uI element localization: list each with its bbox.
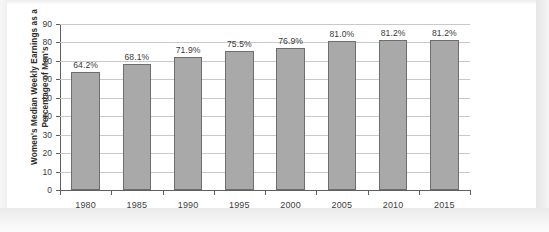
bar bbox=[123, 64, 152, 190]
y-axis-tick-label: 70 bbox=[26, 57, 52, 65]
gridline bbox=[60, 98, 470, 99]
bar-value-label: 75.5% bbox=[214, 39, 265, 49]
y-axis-tick-label: 80 bbox=[26, 38, 52, 46]
bar-value-label: 81.2% bbox=[368, 28, 419, 38]
y-axis-tick bbox=[56, 24, 60, 25]
y-axis-tick-label: 60 bbox=[26, 75, 52, 83]
y-axis-tick-label: 30 bbox=[26, 131, 52, 139]
gridline bbox=[60, 153, 470, 154]
plot-area: 0102030405060708090 64.2%68.1%71.9%75.5%… bbox=[60, 24, 470, 190]
y-axis-tick-label: 50 bbox=[26, 94, 52, 102]
bar-value-label: 64.2% bbox=[60, 60, 111, 70]
scanned-page: Women's Median Weekly Earnings as a Perc… bbox=[0, 0, 549, 232]
x-axis-tick-label: 1990 bbox=[163, 200, 214, 210]
x-axis-tick bbox=[470, 190, 471, 195]
x-axis-tick-label: 1995 bbox=[214, 200, 265, 210]
y-axis-tick bbox=[56, 153, 60, 154]
bar bbox=[328, 41, 357, 190]
bar-value-label: 76.9% bbox=[265, 36, 316, 46]
gridline bbox=[60, 24, 470, 25]
x-axis-tick bbox=[214, 190, 215, 195]
x-axis-tick bbox=[316, 190, 317, 195]
bar-chart: Women's Median Weekly Earnings as a Perc… bbox=[14, 8, 514, 200]
gridline bbox=[60, 135, 470, 136]
page-edge-right bbox=[536, 0, 549, 214]
bar-value-label: 71.9% bbox=[163, 45, 214, 55]
y-axis-tick bbox=[56, 135, 60, 136]
x-axis-tick-label: 1985 bbox=[111, 200, 162, 210]
bar-value-label: 81.0% bbox=[316, 29, 367, 39]
x-axis-tick bbox=[111, 190, 112, 195]
x-axis-tick bbox=[163, 190, 164, 195]
bar-value-label: 81.2% bbox=[419, 28, 470, 38]
bar bbox=[430, 40, 459, 190]
x-axis-tick bbox=[60, 190, 61, 195]
bar bbox=[379, 40, 408, 190]
gridline bbox=[60, 79, 470, 80]
gridline bbox=[60, 116, 470, 117]
x-axis-tick-label: 2015 bbox=[419, 200, 470, 210]
y-axis-tick bbox=[56, 116, 60, 117]
bar bbox=[71, 72, 100, 190]
y-axis-tick bbox=[56, 98, 60, 99]
y-axis-tick-label: 10 bbox=[26, 168, 52, 176]
y-axis-tick-label: 90 bbox=[26, 20, 52, 28]
bar bbox=[225, 51, 254, 190]
y-axis-tick-label: 20 bbox=[26, 149, 52, 157]
x-axis-tick-label: 2010 bbox=[368, 200, 419, 210]
page-edge-top bbox=[0, 0, 549, 5]
y-axis-tick-label: 40 bbox=[26, 112, 52, 120]
page-edge-bottom bbox=[0, 208, 549, 232]
x-axis-tick-label: 2005 bbox=[316, 200, 367, 210]
x-axis-tick-label: 2000 bbox=[265, 200, 316, 210]
x-axis-tick bbox=[419, 190, 420, 195]
bar-value-label: 68.1% bbox=[111, 52, 162, 62]
y-axis-tick bbox=[56, 172, 60, 173]
page-edge-left bbox=[0, 0, 7, 214]
bar bbox=[276, 48, 305, 190]
y-axis-tick-label: 0 bbox=[26, 186, 52, 194]
x-axis-tick-label: 1980 bbox=[60, 200, 111, 210]
y-axis-tick bbox=[56, 79, 60, 80]
x-axis-tick bbox=[368, 190, 369, 195]
gridline bbox=[60, 172, 470, 173]
y-axis-line bbox=[60, 24, 61, 191]
bar bbox=[174, 57, 203, 190]
x-axis-tick bbox=[265, 190, 266, 195]
y-axis-tick bbox=[56, 42, 60, 43]
